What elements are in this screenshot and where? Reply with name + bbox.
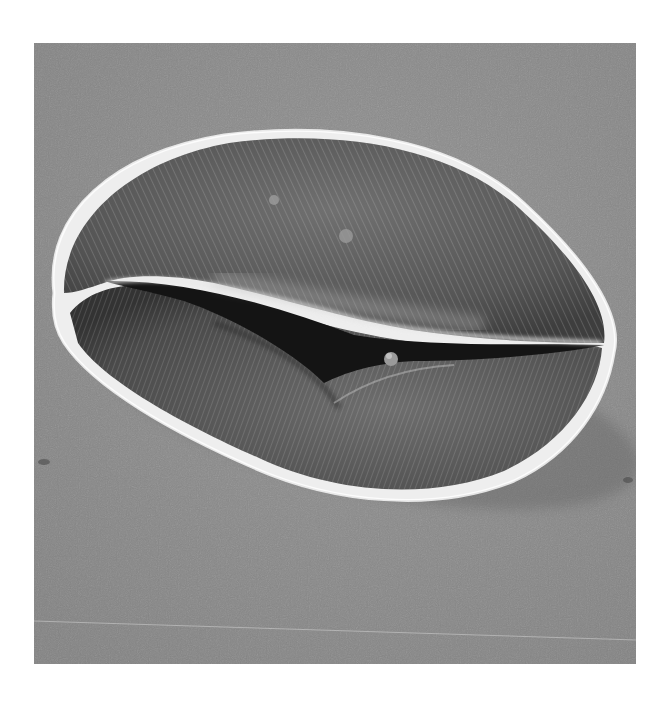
micrograph-photo [34, 43, 636, 664]
surface-particle [339, 229, 353, 243]
surface-particle [269, 195, 279, 205]
pollen-grain-illustration [34, 43, 636, 664]
